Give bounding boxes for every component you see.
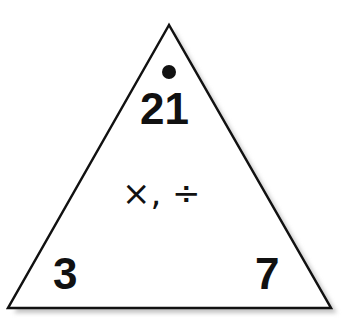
fact-family-triangle: 21 ×, ÷ 3 7 [0, 0, 345, 325]
operations-label: ×, ÷ [122, 176, 201, 210]
bottom-left-number: 3 [53, 252, 77, 296]
dot-marker-icon [162, 65, 176, 79]
top-number: 21 [140, 87, 189, 131]
bottom-right-number: 7 [255, 252, 279, 296]
triangle-shape [0, 0, 345, 325]
